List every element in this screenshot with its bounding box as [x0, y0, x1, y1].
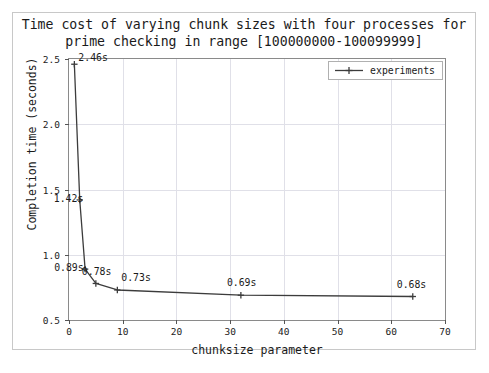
x-axis-tick — [69, 320, 70, 324]
x-axis-tick-label: 60 — [386, 326, 397, 337]
x-axis-tick — [230, 320, 231, 324]
legend-label-experiments: experiments — [370, 65, 435, 76]
x-axis-label: chunksize parameter — [68, 343, 446, 357]
y-axis-label: Completion time (seconds) — [25, 14, 39, 274]
plot-axes: 0102030405060700.51.01.52.02.5 2.46s1.42… — [68, 58, 446, 321]
y-axis-tick-label: 2.0 — [43, 119, 60, 130]
data-point-value-label: 2.46s — [78, 52, 108, 63]
x-axis-tick — [445, 320, 446, 324]
figure-canvas: Time cost of varying chunk sizes with fo… — [0, 0, 489, 373]
data-point-value-label: 1.42s — [54, 193, 84, 204]
data-point-value-label: 0.68s — [397, 279, 427, 290]
x-axis-tick — [176, 320, 177, 324]
x-axis-tick-label: 30 — [224, 326, 235, 337]
x-axis-tick-label: 10 — [117, 326, 128, 337]
x-axis-tick — [123, 320, 124, 324]
data-point-value-label: 0.73s — [121, 272, 151, 283]
series-line-experiments — [74, 64, 412, 296]
x-axis-tick-label: 50 — [332, 326, 343, 337]
data-point-value-label: 0.69s — [227, 277, 257, 288]
data-point-value-label: 0.89s — [54, 262, 84, 273]
x-axis-tick-label: 40 — [278, 326, 289, 337]
x-axis-tick — [391, 320, 392, 324]
chart-title: Time cost of varying chunk sizes with fo… — [14, 16, 474, 50]
x-axis-tick — [338, 320, 339, 324]
data-point-value-label: 0.78s — [82, 266, 112, 277]
x-axis-tick-label: 70 — [439, 326, 450, 337]
x-axis-tick-label: 20 — [171, 326, 182, 337]
legend-line-sample — [334, 66, 364, 75]
series-markers-experiments — [71, 61, 416, 300]
x-axis-tick-label: 0 — [66, 326, 72, 337]
chart-legend[interactable]: experiments — [328, 61, 443, 80]
y-axis-tick-label: 1.0 — [43, 249, 60, 260]
y-axis-tick-label: 2.5 — [43, 54, 60, 65]
y-axis-tick-label: 0.5 — [43, 315, 60, 326]
y-axis-tick — [65, 320, 69, 321]
x-axis-tick — [284, 320, 285, 324]
